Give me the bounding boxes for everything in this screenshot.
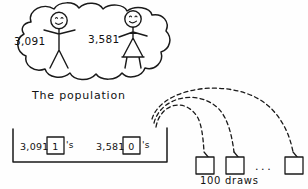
ticket-count-zeros: 3,581 [96,141,125,152]
ticket-suffix-ones: 's [66,140,74,150]
draw-arc-3 [152,88,293,152]
draws-ellipsis: ... [255,160,273,173]
person-right-count-label: 3,581 [88,33,120,45]
population-caption: The population [32,89,126,102]
ticket-value-ones: 1 [47,141,64,152]
draws-caption: 100 draws [200,175,259,186]
ticket-suffix-zeros: 's [142,140,150,150]
draw-box-3 [285,157,303,174]
draw-arc-1 [156,105,204,152]
diagram-canvas: 3,091 3,581 The population 3,091 1 's 3,… [0,0,308,189]
ticket-value-zeros: 0 [123,141,140,152]
person-left-count-label: 3,091 [14,35,46,47]
ticket-count-ones: 3,091 [20,141,49,152]
draw-box-2 [226,157,244,174]
draw-arc-2 [154,97,234,152]
draw-box-1 [196,157,214,174]
